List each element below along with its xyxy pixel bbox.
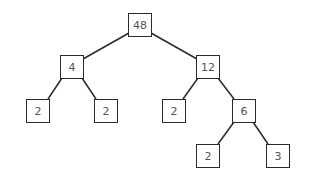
node-2-left-of-12: 2 [162, 99, 186, 123]
edge-4-2b [82, 78, 96, 99]
edge-6-2d [218, 122, 234, 144]
node-12: 12 [196, 55, 220, 79]
node-2-right-of-4: 2 [94, 99, 118, 123]
edge-48-12 [151, 33, 197, 59]
node-6: 6 [232, 99, 256, 123]
edge-12-2c [183, 78, 198, 99]
node-2-left-of-4: 2 [26, 99, 50, 123]
edge-48-4 [83, 33, 129, 59]
edge-4-2a [48, 78, 62, 99]
node-48: 48 [128, 13, 152, 37]
edge-6-3 [253, 122, 268, 144]
edge-12-6 [218, 78, 234, 99]
node-3: 3 [266, 144, 290, 168]
node-2-left-of-6: 2 [196, 144, 220, 168]
node-4: 4 [60, 55, 84, 79]
